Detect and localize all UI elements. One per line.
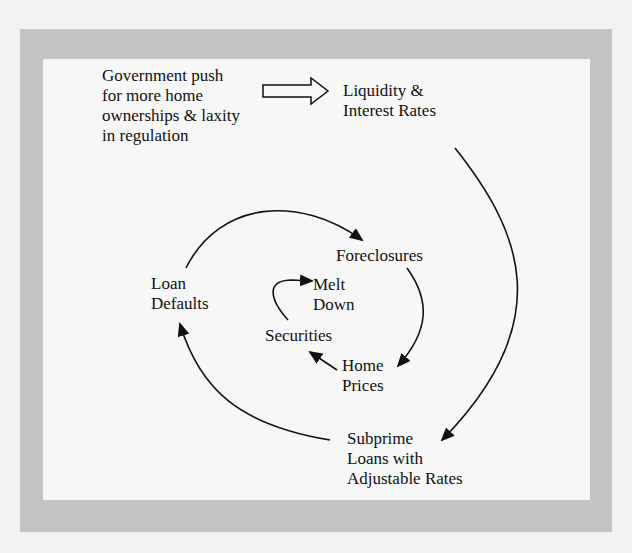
- node-home-prices: Home Prices: [342, 356, 384, 396]
- node-liquidity: Liquidity & Interest Rates: [343, 81, 436, 121]
- block-arrow-government-to-liquidity: [263, 78, 328, 104]
- arrow-liquidity-to-subprime: [442, 148, 517, 440]
- node-melt-down: Melt Down: [313, 275, 355, 315]
- node-foreclosures: Foreclosures: [336, 246, 423, 266]
- node-loan-defaults: Loan Defaults: [151, 274, 209, 314]
- node-subprime: Subprime Loans with Adjustable Rates: [347, 429, 463, 489]
- arrow-home-prices-to-securities: [310, 352, 337, 370]
- arrow-foreclosures-to-home-prices: [398, 268, 423, 366]
- node-securities: Securities: [265, 326, 332, 346]
- node-government: Government push for more home ownerships…: [102, 66, 240, 146]
- arrow-securities-to-melt-down: [273, 280, 312, 320]
